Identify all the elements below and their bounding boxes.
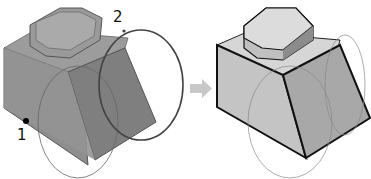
diagram-svg [0,0,371,179]
right-arrow-icon [190,79,212,98]
point-1-marker [23,118,29,124]
right-model [217,8,370,178]
callout-1: 1 [17,128,27,143]
diagram-stage: 1 2 [0,0,371,179]
callout-2: 2 [113,10,123,25]
left-model [4,8,183,178]
